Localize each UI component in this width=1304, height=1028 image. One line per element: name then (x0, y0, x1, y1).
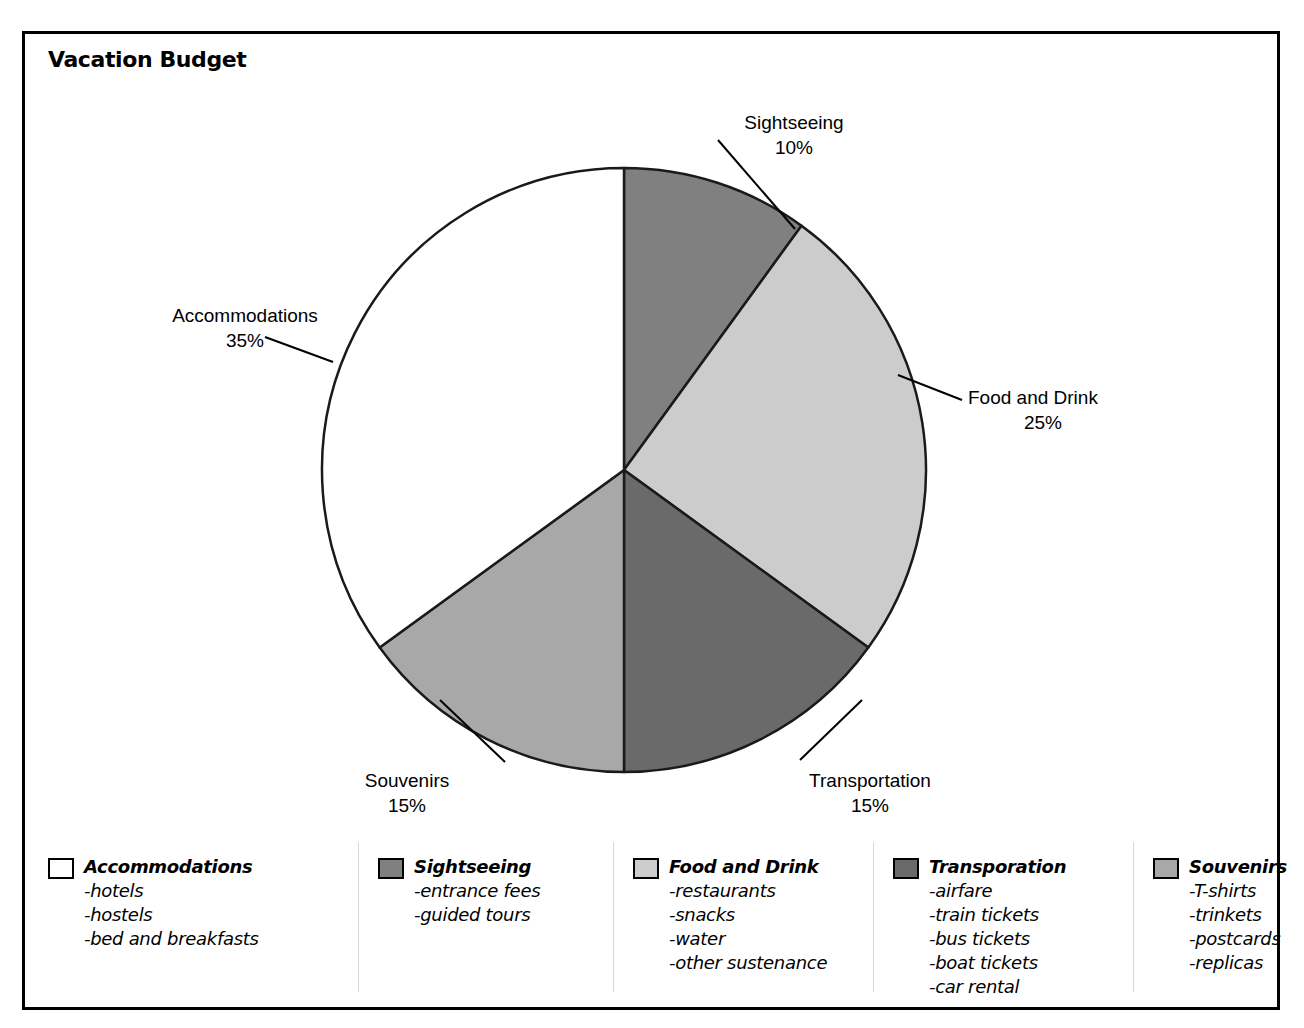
legend-item-transporation[interactable]: Transporation-airfare-train tickets-bus … (893, 856, 1066, 999)
legend-divider (1133, 842, 1134, 992)
pie-slice-group (322, 168, 926, 772)
legend-item-souvenirs[interactable]: Souvenirs-T-shirts-trinkets-postcards-re… (1153, 856, 1287, 975)
legend-sublist-item: -guided tours (414, 903, 540, 927)
legend-title: Food and Drink (669, 856, 818, 878)
legend-divider (358, 842, 359, 992)
pie-label-souvenirs: Souvenirs 15% (312, 768, 502, 818)
legend-sublist: -hotels-hostels-bed and breakfasts (84, 879, 259, 951)
legend-header: Accommodations (48, 856, 259, 879)
legend-title: Sightseeing (414, 856, 531, 878)
chart-figure: Vacation Budget Sightseeing 10% Food and… (0, 0, 1304, 1028)
legend-sublist-item: -airfare (929, 879, 1066, 903)
legend-sublist-item: -restaurants (669, 879, 827, 903)
pie-label-transportation-percent: 15% (760, 793, 980, 818)
legend-sublist: -airfare-train tickets-bus tickets-boat … (929, 879, 1066, 999)
pie-label-sightseeing-name: Sightseeing (744, 112, 843, 133)
legend-title: Accommodations (84, 856, 252, 878)
legend-header: Food and Drink (633, 856, 827, 879)
pie-label-transportation: Transportation 15% (760, 768, 980, 818)
legend-sublist-item: -car rental (929, 975, 1066, 999)
pie-label-accommodations-percent: 35% (140, 328, 350, 353)
legend-item-food-and-drink[interactable]: Food and Drink-restaurants-snacks-water-… (633, 856, 827, 975)
legend-sublist-item: -hostels (84, 903, 259, 927)
legend-sublist-item: -entrance fees (414, 879, 540, 903)
legend-sublist-item: -replicas (1189, 951, 1287, 975)
legend-swatch-icon (1153, 858, 1179, 879)
legend-divider (613, 842, 614, 992)
legend-swatch-icon (48, 858, 74, 879)
legend-header: Sightseeing (378, 856, 540, 879)
legend-sublist-item: -T-shirts (1189, 879, 1287, 903)
legend-title: Souvenirs (1189, 856, 1287, 878)
pie-label-accommodations: Accommodations 35% (140, 303, 350, 353)
legend-swatch-icon (633, 858, 659, 879)
legend-header: Transporation (893, 856, 1066, 879)
legend-swatch-icon (893, 858, 919, 879)
legend-sublist-item: -water (669, 927, 827, 951)
pie-label-souvenirs-name: Souvenirs (365, 770, 450, 791)
pie-label-souvenirs-percent: 15% (312, 793, 502, 818)
legend-sublist: -entrance fees-guided tours (414, 879, 540, 927)
legend-swatch-icon (378, 858, 404, 879)
legend-title: Transporation (929, 856, 1066, 878)
pie-label-food-and-drink-name: Food and Drink (968, 387, 1098, 408)
pie-label-accommodations-name: Accommodations (172, 305, 318, 326)
pie-label-sightseeing: Sightseeing 10% (696, 110, 892, 160)
legend-divider (873, 842, 874, 992)
pie-label-food-and-drink-percent: 25% (968, 410, 1118, 435)
legend-item-accommodations[interactable]: Accommodations-hotels-hostels-bed and br… (48, 856, 259, 951)
legend-sublist-item: -train tickets (929, 903, 1066, 927)
pie-label-food-and-drink: Food and Drink 25% (968, 385, 1178, 435)
pie-label-transportation-name: Transportation (809, 770, 931, 791)
legend-sublist-item: -boat tickets (929, 951, 1066, 975)
legend-sublist-item: -postcards (1189, 927, 1287, 951)
legend-sublist-item: -snacks (669, 903, 827, 927)
legend-sublist-item: -trinkets (1189, 903, 1287, 927)
legend-header: Souvenirs (1153, 856, 1287, 879)
pie-label-sightseeing-percent: 10% (696, 135, 892, 160)
legend-sublist: -T-shirts-trinkets-postcards-replicas (1189, 879, 1287, 975)
legend-sublist-item: -bus tickets (929, 927, 1066, 951)
chart-legend: Accommodations-hotels-hostels-bed and br… (48, 856, 1258, 996)
legend-sublist-item: -other sustenance (669, 951, 827, 975)
legend-sublist-item: -bed and breakfasts (84, 927, 259, 951)
legend-sublist: -restaurants-snacks-water-other sustenan… (669, 879, 827, 975)
legend-sublist-item: -hotels (84, 879, 259, 903)
legend-item-sightseeing[interactable]: Sightseeing-entrance fees-guided tours (378, 856, 540, 927)
